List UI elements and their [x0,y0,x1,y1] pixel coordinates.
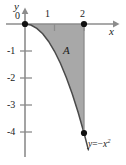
y-tick-label-minus-3: -3 [7,100,15,110]
y-axis-arrowhead [22,8,29,15]
y-tick-label-minus-2: -2 [7,73,15,83]
curve-equation-exponent: 2 [107,137,110,144]
curve-equation-label: y=−x2 [88,140,110,150]
region-label-a: A [63,45,70,56]
origin-label: 0 [15,11,20,21]
parabola-area-figure: y x 0 1 2 -1 -2 -3 -4 A y=−x2 [0,0,126,165]
point-2-0 [81,21,87,27]
y-tick-label-minus-4: -4 [7,127,15,137]
x-tick-label-2: 2 [80,9,85,19]
point-origin [22,21,28,27]
x-tick-label-1: 1 [45,9,50,19]
y-tick-label-minus-1: -1 [7,46,15,56]
x-axis-label: x [109,26,114,37]
shaded-region-a-fill [25,24,84,133]
point-2-minus4 [81,130,87,136]
